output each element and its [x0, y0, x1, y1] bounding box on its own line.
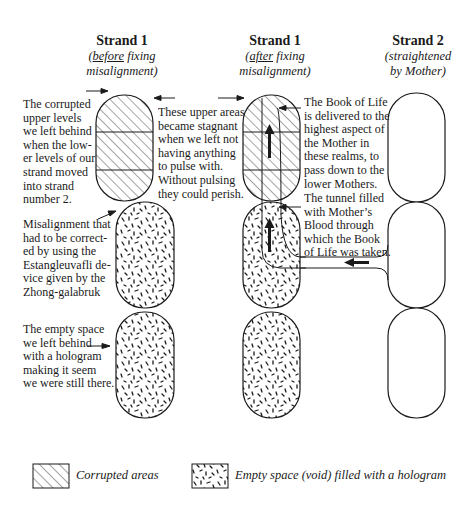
legend-label-hologram: Empty space (void) filled with a hologra…: [235, 468, 446, 483]
header-subtitle: (before fixing: [62, 49, 182, 64]
header-title: Strand 1: [62, 32, 182, 49]
annotation-corrupted-upper: The corruptedupper levels we left behind…: [23, 98, 95, 207]
header-subtitle: (after fixing: [215, 49, 335, 64]
corrupted-upper-segment: [96, 95, 153, 201]
annotation-misalignment: Misalignment thathad to be correct- ed b…: [23, 218, 111, 300]
annotation-stagnant: These upper areasbecame stagnant when we…: [158, 106, 245, 201]
hologram-lower-segment: [116, 312, 174, 418]
header-title: Strand 1: [215, 32, 335, 49]
header-strand1-before: Strand 1 (before fixing misalignment): [62, 32, 182, 79]
header-strand1-after: Strand 1 (after fixing misalignment): [215, 32, 335, 79]
misaligned-middle-segment: [116, 202, 174, 308]
legend-hatched-swatch: [33, 464, 69, 488]
annotation-book-of-life: The Book of Lifeis delivered to the high…: [304, 96, 390, 191]
header-title: Strand 2: [358, 32, 471, 49]
header-strand2: Strand 2 (straightened by Mother): [358, 32, 471, 79]
legend-dotted-swatch: [192, 464, 228, 488]
annotation-tunnel: The tunnel filledwith Mother’s Blood thr…: [304, 192, 391, 260]
annotation-empty-space: The empty spacewe left behind with a hol…: [23, 323, 114, 391]
legend-label-corrupted: Corrupted areas: [76, 468, 159, 483]
